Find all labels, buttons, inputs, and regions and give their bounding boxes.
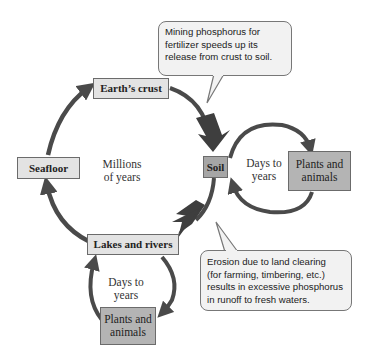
- erosion-callout-line-3: results in excessive phosphorus: [207, 281, 345, 294]
- plants-soil-line-1: Plants and: [296, 158, 344, 171]
- node-lakes-label: Lakes and rivers: [94, 238, 173, 251]
- mining-callout-line-1: Mining phosphorus for: [165, 26, 285, 39]
- erosion-callout-line-4: in runoff to fresh waters.: [207, 294, 345, 307]
- node-earths-crust: Earth’s crust: [93, 78, 169, 99]
- main-cycle-timescale: Millions of years: [92, 158, 152, 184]
- soil-timescale-line-2: years: [242, 170, 286, 183]
- arrow-lakes-to-plants: [162, 257, 174, 312]
- node-seafloor-label: Seafloor: [29, 162, 68, 175]
- plants-lakes-line-1: Plants and: [104, 313, 152, 326]
- mining-callout: Mining phosphorus for fertilizer speeds …: [158, 21, 292, 76]
- main-timescale-line-1: Millions: [92, 158, 152, 171]
- lakes-cycle-timescale: Days to years: [104, 276, 148, 302]
- node-plants-animals-soil: Plants and animals: [288, 151, 351, 191]
- plants-soil-line-2: animals: [302, 171, 338, 184]
- mining-callout-tail: [207, 74, 224, 103]
- mining-tail-mask: [213, 73, 223, 76]
- erosion-callout: Erosion due to land clearing (for farmin…: [200, 250, 352, 311]
- erosion-callout-tail: [216, 222, 238, 252]
- plants-lakes-line-2: animals: [110, 326, 146, 339]
- mining-callout-line-3: release from crust to soil.: [165, 51, 285, 64]
- arrow-lakes-to-seafloor: [47, 185, 90, 242]
- main-timescale-line-2: of years: [92, 171, 152, 184]
- soil-cycle-timescale: Days to years: [242, 157, 286, 183]
- erosion-callout-line-1: Erosion due to land clearing: [207, 256, 345, 269]
- mining-callout-line-2: fertilizer speeds up its: [165, 39, 285, 52]
- node-earths-crust-label: Earth’s crust: [100, 82, 162, 95]
- node-soil: Soil: [203, 156, 228, 178]
- arrow-seafloor-to-crust: [48, 88, 88, 155]
- node-seafloor: Seafloor: [17, 157, 80, 179]
- lakes-timescale-line-2: years: [104, 289, 148, 302]
- node-soil-label: Soil: [207, 161, 225, 174]
- node-plants-animals-lakes: Plants and animals: [100, 307, 156, 345]
- erosion-tail-mask: [226, 250, 237, 253]
- erosion-callout-line-2: (for farming, timbering, etc.): [207, 269, 345, 282]
- soil-timescale-line-1: Days to: [242, 157, 286, 170]
- node-lakes-and-rivers: Lakes and rivers: [87, 234, 179, 255]
- lakes-timescale-line-1: Days to: [104, 276, 148, 289]
